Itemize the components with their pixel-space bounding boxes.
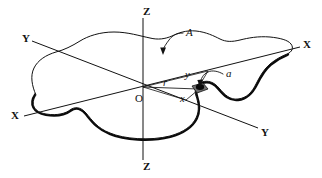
origin-label: O xyxy=(135,93,143,104)
figure-container: Z Z X X Y Y O A a r y x xyxy=(0,0,322,178)
coordinate-label-x: x xyxy=(180,94,185,105)
axis-label-z-top: Z xyxy=(143,6,150,17)
axis-label-z-bottom: Z xyxy=(143,161,150,172)
diagram-canvas xyxy=(0,0,322,178)
coordinate-label-y: y xyxy=(185,70,190,81)
axis-label-y-left: Y xyxy=(22,33,30,44)
area-label-A: A xyxy=(186,27,193,38)
axis-label-x-right: X xyxy=(303,39,311,50)
axis-label-y-right: Y xyxy=(261,127,269,138)
axis-label-x-left: X xyxy=(11,110,19,121)
radius-label-r: r xyxy=(163,78,167,89)
element-label-a: a xyxy=(226,68,232,79)
